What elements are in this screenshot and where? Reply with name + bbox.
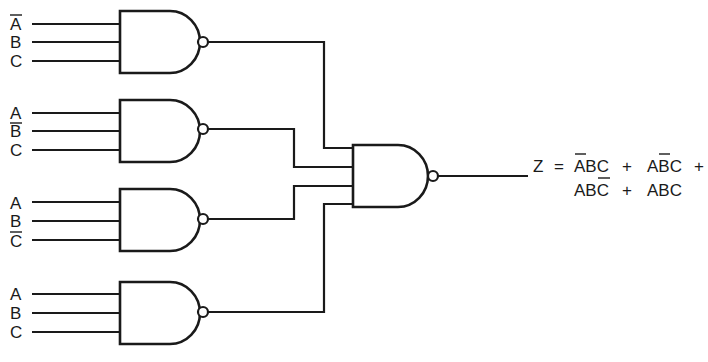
input-label-2a: A [10,104,22,123]
nand-gate-output [353,145,528,207]
wire-gate3-to-out [208,186,353,219]
input-label-4c: C [10,323,22,342]
term-1: ABC [574,157,609,176]
wire-gate1-to-out [208,42,353,148]
input-label-4b: B [10,304,21,323]
term-2: ABC [647,157,682,176]
plus-sign: + [622,157,632,176]
input-label-3a: A [10,194,22,213]
nand-gate-2: A B C [10,100,353,167]
input-label-1a: A [10,15,22,34]
input-label-3b: B [10,212,21,231]
term-4: ABC [647,181,682,200]
input-label-2c: C [10,141,22,160]
output-expression: Z = ABC + ABC + ABC + ABC [533,154,704,200]
wire-gate4-to-out [208,204,353,312]
output-variable: Z [533,157,543,176]
plus-sign: + [694,157,704,176]
input-label-2b: B [10,122,21,141]
nand-gate-3: A B C [10,186,353,251]
logic-circuit-diagram: A B C A B C A B C A B [0,0,708,362]
term-3: ABC [574,181,609,200]
input-label-4a: A [10,285,22,304]
input-label-3c: C [10,232,22,251]
plus-sign: + [622,181,632,200]
input-label-1b: B [10,33,21,52]
equals-sign: = [554,157,564,176]
input-label-1c: C [10,52,22,71]
